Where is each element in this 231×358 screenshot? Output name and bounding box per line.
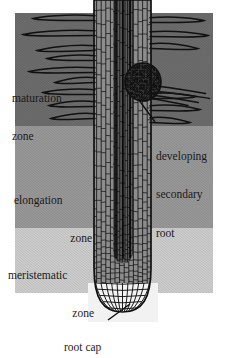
label-developing-secondary-root: developing secondary root (156, 124, 207, 253)
label-secondary-line2: secondary (156, 188, 207, 201)
label-root-cap: root cap (64, 315, 101, 358)
label-maturation-line2: zone (12, 130, 62, 143)
label-maturation-line1: maturation (12, 92, 62, 105)
label-maturation-zone: maturation zone (12, 66, 62, 156)
label-root-cap-line1: root cap (64, 341, 101, 354)
label-elongation-line1: elongation (14, 194, 92, 207)
label-meristematic-line1: meristematic (8, 269, 94, 282)
label-secondary-line1: developing (156, 150, 207, 163)
label-secondary-line3: root (156, 227, 207, 240)
